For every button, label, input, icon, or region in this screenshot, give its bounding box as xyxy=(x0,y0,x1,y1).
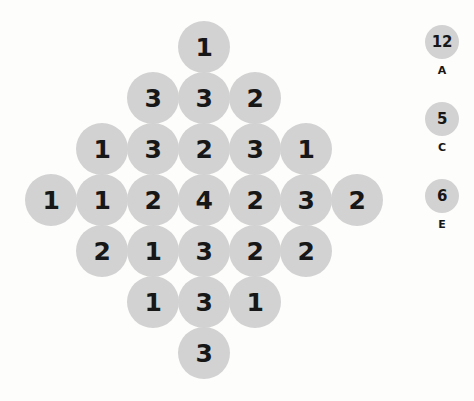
board-cell-value: 2 xyxy=(247,86,264,111)
board-cell[interactable]: 3 xyxy=(178,72,230,124)
board-cell[interactable]: 2 xyxy=(127,174,179,226)
board-cell[interactable]: 1 xyxy=(76,174,128,226)
legend-item-circle: 12 xyxy=(425,25,459,59)
board-cell-value: 1 xyxy=(145,239,162,264)
board-cell[interactable]: 2 xyxy=(178,123,230,175)
board-cell[interactable]: 2 xyxy=(331,174,383,226)
board-cell[interactable]: 1 xyxy=(76,123,128,175)
legend-item[interactable]: 12A xyxy=(410,25,474,76)
board-cell-value: 1 xyxy=(196,35,213,60)
board-cell-value: 1 xyxy=(94,188,111,213)
legend-item-label: A xyxy=(438,65,447,76)
board-cell[interactable]: 1 xyxy=(178,21,230,73)
board-cell[interactable]: 3 xyxy=(178,327,230,379)
board-cell-value: 2 xyxy=(94,239,111,264)
board-cell-value: 1 xyxy=(247,290,264,315)
legend-item-circle: 6 xyxy=(425,179,459,213)
board-cell-value: 4 xyxy=(196,188,213,213)
legend-item[interactable]: 6E xyxy=(410,179,474,230)
board-cell-value: 1 xyxy=(43,188,60,213)
board-cell[interactable]: 2 xyxy=(229,72,281,124)
board-cell-value: 2 xyxy=(196,137,213,162)
board-cell-value: 3 xyxy=(145,86,162,111)
board-cell[interactable]: 2 xyxy=(229,225,281,277)
board-cell[interactable]: 3 xyxy=(280,174,332,226)
board-cell-value: 2 xyxy=(349,188,366,213)
board-cell[interactable]: 3 xyxy=(178,276,230,328)
board-cell[interactable]: 3 xyxy=(178,225,230,277)
legend-panel: 12A5C6E xyxy=(410,0,474,401)
board-cell[interactable]: 1 xyxy=(127,276,179,328)
legend-item[interactable]: 5C xyxy=(410,102,474,153)
board-cell[interactable]: 3 xyxy=(127,123,179,175)
board-cell-value: 3 xyxy=(196,86,213,111)
board-cell-value: 3 xyxy=(196,341,213,366)
board-cell[interactable]: 1 xyxy=(280,123,332,175)
board-cell-value: 3 xyxy=(196,290,213,315)
board-cell[interactable]: 1 xyxy=(25,174,77,226)
legend-item-value: 5 xyxy=(437,112,447,127)
board-cell[interactable]: 2 xyxy=(76,225,128,277)
board-cell-value: 2 xyxy=(247,239,264,264)
board-cell-value: 3 xyxy=(247,137,264,162)
diamond-number-board: 1332132311124232213221313 xyxy=(0,0,410,401)
board-cell[interactable]: 2 xyxy=(229,174,281,226)
board-cell-value: 2 xyxy=(247,188,264,213)
board-cell-value: 2 xyxy=(145,188,162,213)
board-cell-value: 3 xyxy=(145,137,162,162)
board-cell[interactable]: 3 xyxy=(229,123,281,175)
board-cell-value: 1 xyxy=(145,290,162,315)
legend-item-label: C xyxy=(438,142,446,153)
board-cell-value: 2 xyxy=(298,239,315,264)
board-cell[interactable]: 1 xyxy=(127,225,179,277)
board-cell[interactable]: 1 xyxy=(229,276,281,328)
legend-item-value: 12 xyxy=(432,35,452,50)
board-cell[interactable]: 2 xyxy=(280,225,332,277)
board-cell[interactable]: 3 xyxy=(127,72,179,124)
board-cell-value: 1 xyxy=(94,137,111,162)
board-cell-value: 3 xyxy=(196,239,213,264)
board-cell[interactable]: 4 xyxy=(178,174,230,226)
board-cell-value: 1 xyxy=(298,137,315,162)
board-cell-value: 3 xyxy=(298,188,315,213)
legend-item-label: E xyxy=(438,219,446,230)
legend-item-value: 6 xyxy=(437,189,447,204)
legend-item-circle: 5 xyxy=(425,102,459,136)
